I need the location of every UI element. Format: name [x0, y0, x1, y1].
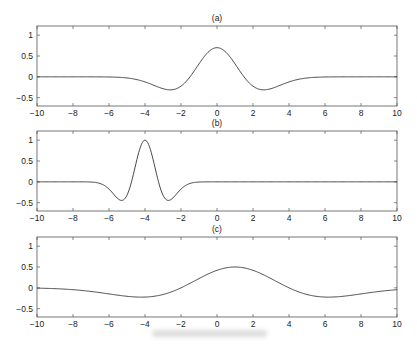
y-tick-label: 0.5 [21, 51, 33, 61]
figure-caption-blurred [152, 330, 267, 337]
y-tick-label: 1 [28, 30, 33, 40]
panel-title: (b) [212, 118, 223, 128]
figure: (a)−10−8−6−4−20246810−0.500.51(b)−10−8−6… [0, 0, 417, 345]
x-tick-label: −6 [104, 108, 114, 118]
y-tick-label: −0.5 [16, 93, 33, 103]
wavelet-curve [37, 140, 397, 200]
x-tick-label: 0 [215, 108, 220, 118]
x-tick-label: 8 [359, 213, 364, 223]
x-tick-label: −4 [140, 108, 150, 118]
x-tick-label: −10 [30, 319, 45, 329]
y-tick-label: −0.5 [16, 198, 33, 208]
axes-box [37, 26, 397, 106]
y-tick-label: 0 [28, 283, 33, 293]
x-tick-label: 4 [287, 213, 292, 223]
y-tick-label: 0 [28, 72, 33, 82]
x-tick-label: 4 [287, 319, 292, 329]
y-tick-label: 0.5 [21, 262, 33, 272]
x-tick-label: −10 [30, 108, 45, 118]
x-tick-label: 8 [359, 319, 364, 329]
x-tick-label: 6 [323, 319, 328, 329]
x-tick-label: 10 [392, 213, 402, 223]
x-tick-label: −8 [68, 319, 78, 329]
y-tick-label: 1 [28, 135, 33, 145]
x-tick-label: −4 [140, 319, 150, 329]
wavelet-curve [37, 267, 397, 297]
x-tick-label: −2 [176, 213, 186, 223]
y-tick-label: 1 [28, 241, 33, 251]
axes-box [37, 237, 397, 317]
wavelet-curve [37, 48, 397, 90]
x-tick-label: 2 [251, 213, 256, 223]
x-tick-label: −2 [176, 108, 186, 118]
x-tick-label: 4 [287, 108, 292, 118]
x-tick-label: 8 [359, 108, 364, 118]
subplot-a: (a)−10−8−6−4−20246810−0.500.51 [16, 13, 402, 118]
subplot-c: (c)−10−8−6−4−20246810−0.500.51 [16, 224, 402, 329]
x-tick-label: −6 [104, 319, 114, 329]
x-tick-label: 2 [251, 319, 256, 329]
x-tick-label: 10 [392, 108, 402, 118]
x-tick-label: −2 [176, 319, 186, 329]
y-tick-label: −0.5 [16, 304, 33, 314]
x-tick-label: −10 [30, 213, 45, 223]
y-tick-label: 0.5 [21, 156, 33, 166]
x-tick-label: 0 [215, 319, 220, 329]
x-tick-label: −6 [104, 213, 114, 223]
panel-title: (a) [212, 13, 223, 23]
subplot-b: (b)−10−8−6−4−20246810−0.500.51 [16, 118, 402, 223]
panel-title: (c) [212, 224, 222, 234]
x-tick-label: −8 [68, 213, 78, 223]
y-tick-label: 0 [28, 177, 33, 187]
x-tick-label: −4 [140, 213, 150, 223]
x-tick-label: −8 [68, 108, 78, 118]
x-tick-label: 6 [323, 213, 328, 223]
x-tick-label: 6 [323, 108, 328, 118]
x-tick-label: 10 [392, 319, 402, 329]
axes-box [37, 131, 397, 211]
x-tick-label: 2 [251, 108, 256, 118]
x-tick-label: 0 [215, 213, 220, 223]
